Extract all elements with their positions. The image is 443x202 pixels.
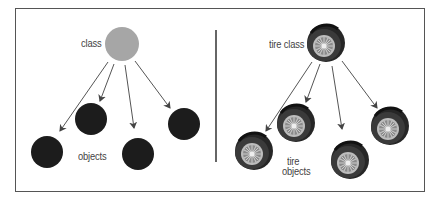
left-diagram (31, 27, 200, 170)
arrow-7 (332, 66, 342, 129)
tire-object-icon-1 (235, 132, 273, 170)
class-circle (105, 27, 139, 61)
tire-objects-label-line2: objects (282, 165, 310, 177)
tire-object-icon-2 (277, 104, 315, 142)
tire-class-icon (307, 24, 345, 62)
arrow-2 (100, 64, 114, 101)
tire-object-icon-4 (371, 107, 409, 145)
object-circle-3 (122, 138, 154, 170)
class-label: class (81, 37, 101, 49)
arrow-4 (135, 61, 170, 108)
tire-class-label: tire class (269, 38, 304, 50)
object-circle-4 (168, 108, 200, 140)
object-circle-2 (75, 103, 107, 135)
arrow-3 (125, 65, 134, 128)
arrow-6 (306, 64, 320, 102)
diagram-canvas (0, 0, 443, 202)
objects-label: objects (78, 150, 106, 162)
right-diagram (235, 24, 409, 179)
tire-object-icon-3 (331, 141, 369, 179)
arrow-8 (342, 61, 377, 108)
object-circle-1 (31, 136, 63, 168)
